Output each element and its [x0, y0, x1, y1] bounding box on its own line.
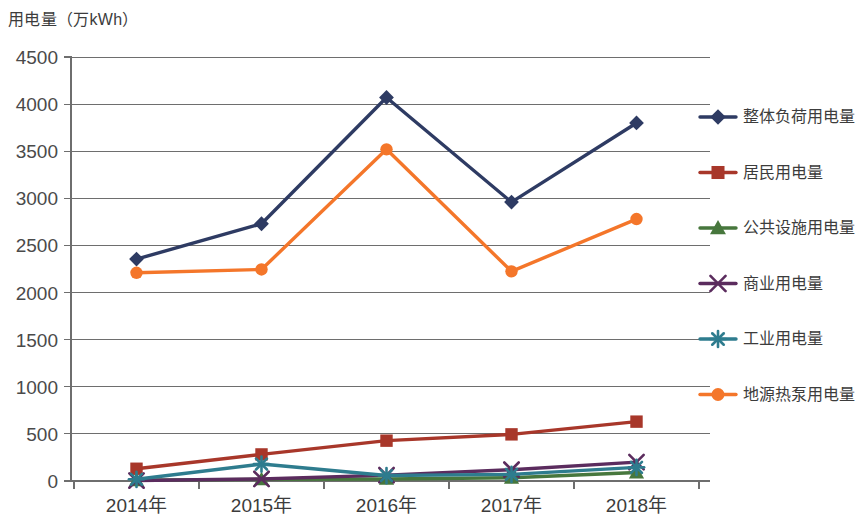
- data-point-marker: [254, 456, 269, 471]
- data-point-marker: [505, 428, 517, 440]
- data-point-marker: [630, 415, 642, 427]
- data-point-marker: [710, 109, 726, 125]
- legend-item[interactable]: 整体负荷用电量: [700, 108, 855, 125]
- series-line: [137, 149, 637, 272]
- legend-label: 工业用电量: [743, 330, 823, 347]
- y-axis-tick-label: 4000: [16, 94, 58, 115]
- y-axis-tick-label: 3000: [16, 188, 58, 209]
- line-chart-plot: 050010001500200025003000350040004500 201…: [0, 0, 861, 521]
- data-point-marker: [710, 331, 726, 347]
- x-axis-tick-label: 2016年: [356, 495, 417, 516]
- x-axis-tick-label: 2014年: [106, 495, 167, 516]
- gridlines: [64, 57, 710, 481]
- y-axis-tick-label: 2500: [16, 235, 58, 256]
- data-point-marker: [711, 166, 724, 179]
- x-axis-tick-label: 2015年: [231, 495, 292, 516]
- y-axis-tick-label: 3500: [16, 141, 58, 162]
- data-series: [130, 143, 642, 279]
- y-axis-tick-label: 4500: [16, 47, 58, 68]
- legend-label: 整体负荷用电量: [743, 108, 855, 125]
- legend-label: 公共设施用电量: [743, 219, 855, 236]
- y-axis-tick-label: 2000: [16, 283, 58, 304]
- data-point-marker: [504, 467, 519, 482]
- data-point-marker: [130, 267, 142, 279]
- legend-item[interactable]: 公共设施用电量: [700, 219, 855, 236]
- data-point-marker: [711, 388, 724, 401]
- data-point-marker: [380, 143, 392, 155]
- chart-container: 用电量（万kWh） 050010001500200025003000350040…: [0, 0, 861, 521]
- series-line: [137, 98, 637, 260]
- y-axis-tick-label: 1000: [16, 377, 58, 398]
- legend-label: 商业用电量: [743, 275, 823, 292]
- legend-item[interactable]: 居民用电量: [700, 164, 823, 181]
- data-point-marker: [129, 252, 144, 267]
- data-series: [129, 90, 644, 266]
- legend-label: 地源热泵用电量: [743, 386, 855, 403]
- x-axis-tick-label: 2017年: [481, 495, 542, 516]
- legend-item[interactable]: 地源热泵用电量: [700, 386, 855, 403]
- y-axis-tick-label: 0: [47, 471, 58, 492]
- x-axis-tick-label: 2018年: [606, 495, 667, 516]
- y-axis-tick-label: 1500: [16, 330, 58, 351]
- y-axis-tick-label: 500: [26, 424, 58, 445]
- data-series-group: [129, 90, 644, 488]
- legend-item[interactable]: 工业用电量: [700, 330, 823, 347]
- data-point-marker: [379, 468, 394, 483]
- x-axis-tick-labels: 2014年2015年2016年2017年2018年: [106, 495, 667, 516]
- legend-item[interactable]: 商业用电量: [700, 275, 823, 292]
- data-point-marker: [629, 460, 644, 475]
- data-point-marker: [129, 472, 144, 487]
- data-point-marker: [630, 213, 642, 225]
- y-axis-tick-labels: 050010001500200025003000350040004500: [16, 47, 58, 492]
- data-point-marker: [505, 265, 517, 277]
- chart-legend: 整体负荷用电量居民用电量公共设施用电量商业用电量工业用电量地源热泵用电量: [700, 108, 855, 403]
- legend-label: 居民用电量: [743, 164, 823, 181]
- data-point-marker: [380, 434, 392, 446]
- data-point-marker: [255, 263, 267, 275]
